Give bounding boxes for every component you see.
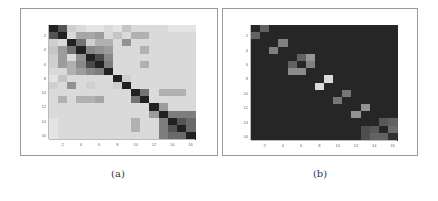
y-tick-label: 4 [238,48,248,53]
y-axis-line [48,25,49,139]
x-tick-label: 12 [149,142,159,147]
y-tick-label: 12 [36,104,46,109]
x-tick-label: 16 [185,142,195,147]
y-tick-label: 16 [238,134,248,139]
caption-a: (a) [98,168,138,179]
y-tick-label: 8 [238,76,248,81]
panel-a: 246810121416246810121416 [20,8,218,156]
x-tick-label: 6 [296,143,306,148]
x-tick-label: 2 [260,143,270,148]
x-tick-label: 10 [333,143,343,148]
y-tick-label: 4 [36,47,46,52]
x-tick-label: 2 [58,142,68,147]
x-tick-label: 6 [94,142,104,147]
y-tick-label: 8 [36,76,46,81]
y-tick-label: 2 [36,33,46,38]
x-tick-label: 4 [278,143,288,148]
y-tick-label: 14 [238,120,248,125]
x-tick-label: 14 [167,142,177,147]
heatmap-b [251,25,397,140]
panel-b: 246810121416246810121416 [222,8,418,156]
x-tick-label: 8 [314,143,324,148]
x-axis-line [49,139,195,140]
y-tick-label: 10 [238,91,248,96]
heatmap-a [49,25,195,139]
y-tick-label: 6 [238,62,248,67]
x-tick-label: 12 [351,143,361,148]
x-axis-line [251,140,397,141]
y-tick-label: 14 [36,119,46,124]
x-tick-label: 14 [369,143,379,148]
x-tick-label: 4 [76,142,86,147]
y-tick-label: 2 [238,33,248,38]
x-tick-label: 8 [112,142,122,147]
x-tick-label: 16 [387,143,397,148]
y-tick-label: 10 [36,90,46,95]
y-tick-label: 6 [36,62,46,67]
x-tick-label: 10 [131,142,141,147]
y-tick-label: 12 [238,105,248,110]
y-axis-line [250,25,251,140]
caption-b: (b) [300,168,340,179]
y-tick-label: 16 [36,133,46,138]
